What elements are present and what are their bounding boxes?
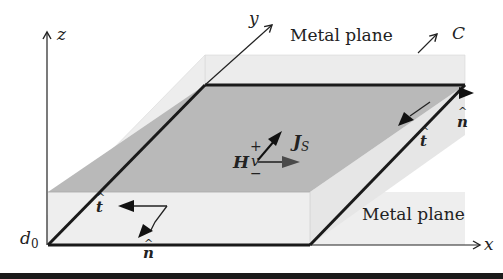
right-tangent-hat: ^ <box>420 125 429 138</box>
y-axis-label: y <box>248 8 259 28</box>
d0-label: d0 <box>20 228 39 251</box>
bottom-metal-plane-label: Metal plane <box>362 204 465 224</box>
left-tangent-hat: ^ <box>96 191 105 204</box>
upper-metal-plane <box>205 55 465 85</box>
bottom-border-bar <box>0 273 503 279</box>
z-axis-label: z <box>56 24 67 44</box>
right-normal-arrow-head <box>459 87 474 99</box>
waveguide-diagram: z y x d0 Metal plane Metal plane C + v −… <box>0 0 503 279</box>
x-axis-label: x <box>484 234 494 254</box>
h-label: H <box>232 152 250 172</box>
left-normal-hat: ^ <box>144 237 153 250</box>
right-normal-hat: ^ <box>458 105 467 118</box>
top-metal-plane-label: Metal plane <box>290 25 393 45</box>
contour-pointer-arrow <box>418 34 437 53</box>
contour-label: C <box>452 23 465 43</box>
minus-sign: − <box>250 165 262 181</box>
